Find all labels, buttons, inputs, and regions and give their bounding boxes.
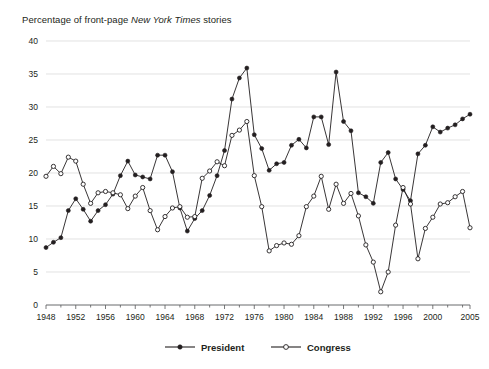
data-point-congress-1985 [319,174,323,178]
legend-marker-president [178,345,182,349]
y-tick-label-10: 10 [29,234,39,244]
data-point-congress-1957 [111,191,115,195]
data-point-president-1959 [126,159,130,163]
data-point-president-1977 [260,147,264,151]
data-point-congress-1951 [66,155,70,159]
data-point-congress-1968 [193,214,197,218]
y-tick-label-15: 15 [29,201,39,211]
chart-container: Percentage of front-page New York Times … [0,0,489,369]
data-point-congress-1990 [356,214,360,218]
data-point-congress-1996 [401,185,405,189]
data-point-congress-1971 [215,160,219,164]
data-point-congress-1970 [208,169,212,173]
y-tick-label-40: 40 [29,36,39,46]
x-tick-label-1980: 1980 [275,312,294,322]
x-tick-label-1960: 1960 [126,312,145,322]
data-point-congress-1999 [423,226,427,230]
data-point-congress-1977 [260,205,264,209]
data-point-president-2001 [438,130,442,134]
data-point-congress-1952 [74,159,78,163]
data-point-president-1958 [118,174,122,178]
data-point-president-1960 [133,173,137,177]
x-tick-label-1964: 1964 [156,312,175,322]
data-point-president-1963 [156,153,160,157]
data-point-congress-2004 [460,189,464,193]
data-point-president-1952 [74,197,78,201]
data-point-president-1999 [423,143,427,147]
data-point-congress-1979 [275,244,279,248]
data-point-congress-1988 [341,201,345,205]
data-point-congress-1995 [394,223,398,227]
data-point-congress-1955 [96,191,100,195]
data-point-congress-2005 [468,226,472,230]
x-axis [46,305,470,309]
x-tick-label-1988: 1988 [334,312,353,322]
x-tick-label-1952: 1952 [66,312,85,322]
data-point-congress-1949 [51,164,55,168]
data-point-president-1954 [89,219,93,223]
x-tick-label-1976: 1976 [245,312,264,322]
data-point-president-2004 [461,117,465,121]
data-point-president-2002 [446,126,450,130]
legend-label-congress: Congress [307,342,351,353]
series-congress [44,119,472,293]
data-point-president-1993 [379,160,383,164]
data-point-congress-1994 [386,270,390,274]
data-point-congress-1972 [222,164,226,168]
x-axis-tick-labels: 1948195219561960196419681972197619801984… [37,312,480,322]
data-point-president-1965 [170,170,174,174]
data-point-congress-1958 [118,193,122,197]
data-point-president-1994 [386,151,390,155]
data-point-congress-1961 [141,185,145,189]
data-point-congress-1987 [334,182,338,186]
data-point-congress-1980 [282,241,286,245]
data-point-congress-1973 [230,133,234,137]
data-point-president-1962 [148,177,152,181]
data-point-congress-1993 [379,290,383,294]
y-tick-label-0: 0 [33,300,38,310]
data-point-president-1970 [208,193,212,197]
data-point-president-1976 [252,133,256,137]
x-tick-label-2005: 2005 [461,312,480,322]
data-point-congress-2003 [453,195,457,199]
data-point-president-1951 [66,209,70,213]
data-point-president-1956 [104,203,108,207]
data-point-president-1949 [51,240,55,244]
chart-legend: PresidentCongress [165,342,351,353]
data-point-congress-1966 [178,205,182,209]
data-point-president-1982 [297,137,301,141]
data-point-president-1980 [282,160,286,164]
x-tick-label-1968: 1968 [185,312,204,322]
data-point-congress-1963 [155,228,159,232]
x-tick-label-2000: 2000 [423,312,442,322]
line-chart-plot: 0510152025303540 19481952195619601964196… [0,0,489,369]
data-point-president-1972 [223,149,227,153]
data-point-president-1983 [304,146,308,150]
data-point-president-1987 [334,70,338,74]
x-tick-label-1948: 1948 [37,312,56,322]
data-point-president-1985 [319,115,323,119]
series-line-president [46,68,470,248]
x-tick-label-1956: 1956 [96,312,115,322]
data-point-president-1969 [200,209,204,213]
data-point-president-1998 [416,152,420,156]
data-point-congress-1982 [297,234,301,238]
data-point-congress-1976 [252,174,256,178]
data-point-congress-1956 [103,189,107,193]
legend-label-president: President [201,342,245,353]
data-point-congress-1964 [163,214,167,218]
y-tick-label-25: 25 [29,135,39,145]
x-tick-label-1996: 1996 [394,312,413,322]
data-point-congress-1960 [133,194,137,198]
data-point-congress-1953 [81,182,85,186]
data-point-president-1955 [96,209,100,213]
data-point-congress-1998 [416,257,420,261]
data-point-president-1989 [349,129,353,133]
data-point-president-1950 [59,236,63,240]
data-point-congress-1991 [364,243,368,247]
data-point-congress-1986 [327,207,331,211]
data-point-president-1948 [44,246,48,250]
data-point-congress-1954 [89,201,93,205]
data-point-congress-1992 [371,260,375,264]
data-point-congress-1969 [200,176,204,180]
